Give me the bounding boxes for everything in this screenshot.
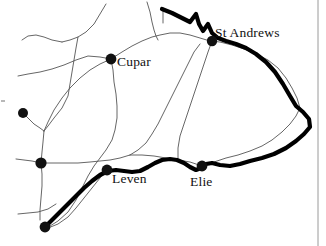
map-label-leven: Leven xyxy=(112,172,147,186)
road-north-spur xyxy=(147,2,158,40)
map-label-cupar: Cupar xyxy=(117,55,151,69)
road-north-mid-down xyxy=(44,37,78,131)
map-label-st-andrews: St Andrews xyxy=(215,26,280,40)
road-far-west-low xyxy=(18,204,56,214)
settlement-dot-node-west-lower xyxy=(35,157,46,168)
settlement-dot-node-south-west xyxy=(40,222,51,233)
road-cupar-west-diag xyxy=(44,59,111,131)
map-label-elie: Elie xyxy=(190,175,213,189)
settlement-dot-cupar xyxy=(106,54,117,65)
settlement-dot-leven xyxy=(102,165,113,176)
road-upper-left-west xyxy=(22,35,62,42)
coastline-path xyxy=(46,9,310,226)
road-standrews-south xyxy=(178,41,212,158)
road-upper-left-branch xyxy=(62,4,106,42)
coastline xyxy=(46,9,310,226)
settlement-dot-elie xyxy=(197,161,208,172)
sketch-map: St Andrews Cupar Leven Elie xyxy=(0,0,326,246)
settlement-dot-node-west-upper xyxy=(18,108,28,118)
road-junction-east xyxy=(41,155,130,163)
road-elie-east xyxy=(202,108,300,166)
road-cupar-south xyxy=(50,59,117,226)
